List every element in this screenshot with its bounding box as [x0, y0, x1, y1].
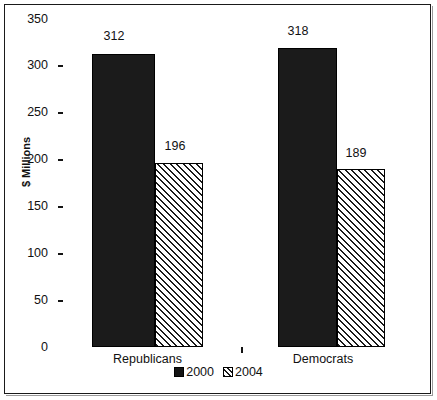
y-tick-label-350: 350 — [14, 13, 48, 26]
plot-area — [58, 18, 393, 347]
legend-item-2004[interactable]: 2004 — [223, 366, 263, 379]
x-label-democrats: Democrats — [258, 352, 388, 366]
bar-democrats-2004[interactable] — [337, 169, 385, 347]
y-tick-label-100: 100 — [14, 247, 48, 260]
legend-swatch-hatch-icon — [223, 367, 233, 377]
bar-chart-figure: $ Millions 350 300 250 200 150 100 50 0 … — [0, 0, 437, 400]
x-label-republicans: Republicans — [75, 352, 220, 366]
value-label-republicans-2004: 196 — [137, 139, 213, 153]
y-tick-label-50: 50 — [14, 294, 48, 307]
legend-item-2000[interactable]: 2000 — [174, 366, 214, 379]
value-label-republicans-2000: 312 — [72, 29, 156, 43]
y-tick-label-300: 300 — [14, 59, 48, 72]
value-label-democrats-2004: 189 — [323, 146, 389, 160]
x-tick-mark-group-divider — [241, 347, 243, 353]
bar-democrats-2000[interactable] — [278, 48, 337, 347]
bar-republicans-2004[interactable] — [155, 163, 203, 347]
y-tick-label-150: 150 — [14, 200, 48, 213]
legend-label-2000: 2000 — [186, 366, 214, 379]
y-tick-label-200: 200 — [14, 153, 48, 166]
legend-label-2004: 2004 — [235, 366, 263, 379]
chart-legend: 2000 2004 — [0, 366, 437, 379]
y-tick-label-250: 250 — [14, 106, 48, 119]
y-tick-label-0: 0 — [14, 341, 48, 354]
legend-swatch-solid-icon — [174, 367, 184, 377]
value-label-democrats-2000: 318 — [265, 24, 331, 38]
bar-republicans-2000[interactable] — [92, 54, 155, 347]
